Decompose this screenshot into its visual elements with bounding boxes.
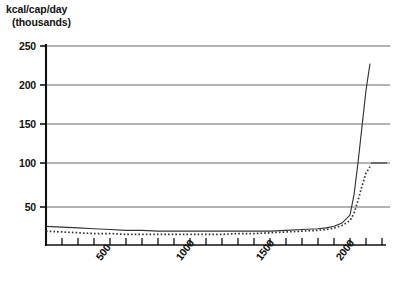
chart-figure: kcal/cap/day(thousands) 250 200 150 100 … (0, 0, 408, 297)
gridlines (46, 46, 390, 207)
data-line-dotted (46, 167, 370, 235)
data-line-solid (46, 64, 370, 231)
plot-area (0, 0, 408, 297)
x-axis-ticks (46, 238, 382, 245)
